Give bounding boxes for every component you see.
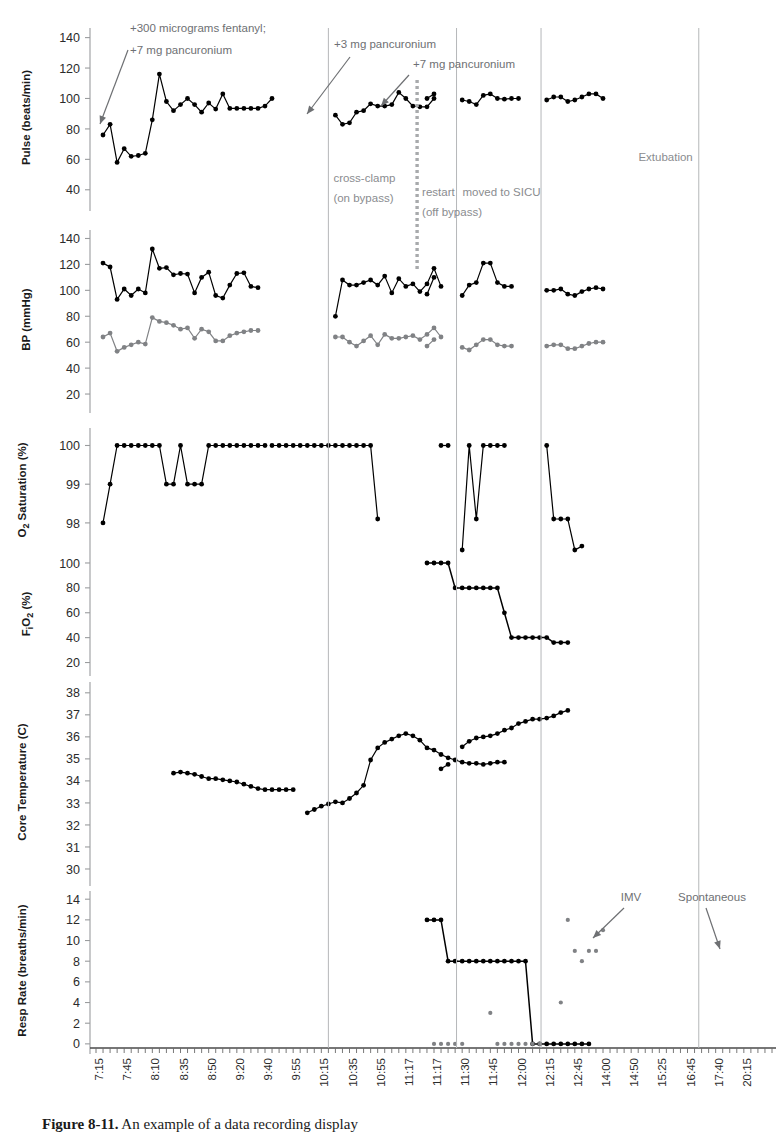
data-point-pulse-0 bbox=[263, 104, 268, 109]
data-point-pulse-0 bbox=[234, 106, 239, 111]
data-point-o2sat-0 bbox=[164, 482, 169, 487]
data-point-pulse-0 bbox=[333, 113, 338, 118]
data-point-bp-1 bbox=[227, 333, 232, 338]
data-point-temp-0 bbox=[425, 746, 430, 751]
data-point-temp-0 bbox=[439, 766, 444, 771]
data-point-o2sat-0 bbox=[256, 443, 261, 448]
data-point-bp-0 bbox=[432, 275, 437, 280]
data-point-bp-1 bbox=[164, 320, 169, 325]
data-point-pulse-0 bbox=[340, 122, 345, 127]
multi-panel-vital-signs-chart: 406080100120140Pulse (beats/min)20406080… bbox=[0, 0, 783, 1100]
data-point-temp-0 bbox=[361, 783, 366, 788]
data-point-temp-0 bbox=[333, 799, 338, 804]
data-point-pulse-0 bbox=[594, 92, 599, 97]
x-tick-label-1: 7:45 bbox=[121, 1058, 133, 1080]
data-point-bp-0 bbox=[425, 292, 430, 297]
t2: Saturation (%) bbox=[16, 442, 28, 523]
data-point-temp-0 bbox=[291, 787, 296, 792]
data-point-fio2-0 bbox=[516, 635, 521, 640]
data-point-bp-0 bbox=[256, 285, 261, 290]
data-point-temp-0 bbox=[418, 738, 423, 743]
data-point-o2sat-0 bbox=[502, 443, 507, 448]
data-point-bp-1 bbox=[234, 331, 239, 336]
data-point-temp-0 bbox=[227, 779, 232, 784]
data-point-o2sat-0 bbox=[572, 548, 577, 553]
data-point-o2sat-0 bbox=[143, 443, 148, 448]
data-point-fio2-0 bbox=[474, 586, 479, 591]
data-point-bp-1 bbox=[587, 341, 592, 346]
data-point-pulse-0 bbox=[206, 101, 211, 106]
data-point-temp-0 bbox=[474, 761, 479, 766]
data-point-temp-0 bbox=[340, 801, 345, 806]
y-tick-label-pulse-4: 120 bbox=[59, 62, 80, 76]
data-point-temp-0 bbox=[502, 760, 507, 765]
y-tick-label-temp-5: 35 bbox=[66, 752, 80, 766]
data-point-bp-1 bbox=[101, 335, 106, 340]
data-point-temp-0 bbox=[509, 726, 514, 731]
data-point-o2sat-0 bbox=[340, 443, 345, 448]
y-axis-title-resp: Resp Rate (breaths/min) bbox=[16, 904, 28, 1036]
data-point-o2sat-0 bbox=[263, 443, 268, 448]
data-point-temp-0 bbox=[389, 737, 394, 742]
data-point-temp-0 bbox=[446, 762, 451, 767]
x-tick-label-10: 10:55 bbox=[375, 1058, 387, 1087]
x-tick-label-17: 12:45 bbox=[572, 1058, 584, 1087]
series-line-bp-0-3 bbox=[462, 263, 511, 295]
data-point-pulse-0 bbox=[509, 96, 514, 101]
figure-container: 406080100120140Pulse (beats/min)20406080… bbox=[0, 0, 783, 1139]
data-point-bp-1 bbox=[256, 328, 261, 333]
series-line-o2sat-0-0 bbox=[103, 446, 265, 523]
data-point-resp-0 bbox=[474, 959, 479, 964]
y-tick-label-temp-1: 31 bbox=[66, 841, 80, 855]
data-point-pulse-0 bbox=[474, 102, 479, 107]
data-point-resp-0 bbox=[432, 918, 437, 923]
data-point-o2sat-0 bbox=[115, 443, 120, 448]
data-point-temp-0 bbox=[467, 739, 472, 744]
data-point-bp-1 bbox=[502, 344, 507, 349]
data-point-bp-0 bbox=[242, 270, 247, 275]
data-point-temp-0 bbox=[277, 787, 282, 792]
data-point-bp-1 bbox=[122, 345, 127, 350]
data-point-o2sat-0 bbox=[333, 443, 338, 448]
data-point-bp-0 bbox=[551, 288, 556, 293]
panel-temp: 303132333435363738Core Temperature (C) bbox=[16, 682, 570, 886]
data-point-bp-1 bbox=[439, 335, 444, 340]
data-point-bp-1 bbox=[242, 329, 247, 334]
data-point-o2sat-0 bbox=[199, 482, 204, 487]
data-point-bp-0 bbox=[333, 314, 338, 319]
data-point-bp-0 bbox=[474, 280, 479, 285]
data-point-pulse-0 bbox=[115, 160, 120, 165]
series-line-temp-0-0 bbox=[174, 772, 294, 790]
data-point-bp-0 bbox=[150, 247, 155, 252]
data-point-fio2-0 bbox=[509, 635, 514, 640]
data-point-o2sat-0 bbox=[270, 443, 275, 448]
x-tick-label-18: 14:00 bbox=[600, 1058, 612, 1087]
data-point-pulse-0 bbox=[101, 133, 106, 138]
data-point-bp-0 bbox=[227, 283, 232, 288]
data-point-pulse-0 bbox=[347, 120, 352, 125]
data-point-resp-1 bbox=[573, 949, 577, 953]
data-point-o2sat-0 bbox=[242, 443, 247, 448]
y-tick-label-resp-1: 2 bbox=[73, 1017, 80, 1031]
data-point-bp-1 bbox=[403, 335, 408, 340]
y-tick-label-resp-6: 12 bbox=[66, 913, 80, 927]
data-point-fio2-0 bbox=[467, 586, 472, 591]
data-point-bp-0 bbox=[481, 261, 486, 266]
data-point-temp-0 bbox=[382, 740, 387, 745]
annotation-arrow-1-head bbox=[307, 106, 315, 114]
x-axis: 7:157:458:108:358:509:209:409:5510:1510:… bbox=[90, 1048, 776, 1087]
series-line-bp-0-1 bbox=[335, 268, 441, 316]
data-point-resp-1 bbox=[432, 1042, 436, 1046]
event-label-3: moved to SICU bbox=[463, 186, 541, 198]
data-point-pulse-0 bbox=[403, 96, 408, 101]
data-point-o2sat-0 bbox=[227, 443, 232, 448]
data-point-bp-1 bbox=[220, 339, 225, 344]
data-point-bp-0 bbox=[171, 272, 176, 277]
data-point-o2sat-0 bbox=[446, 443, 451, 448]
data-point-bp-0 bbox=[143, 291, 148, 296]
x-tick-label-12: 11:17 bbox=[431, 1058, 443, 1086]
y-tick-label-pulse-0: 40 bbox=[66, 183, 80, 197]
data-point-bp-1 bbox=[213, 339, 218, 344]
data-point-resp-0 bbox=[565, 1042, 570, 1047]
data-point-bp-1 bbox=[467, 348, 472, 353]
